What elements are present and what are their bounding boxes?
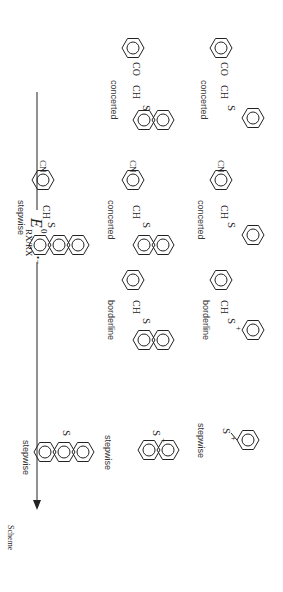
svg-text:stepwise: stepwise [196,423,206,458]
svg-text:concerted: concerted [106,200,116,240]
svg-text:CH: CH [219,85,230,99]
rotated-diagram: E 0 RX/RX •− S + stepwise S + stepwise S… [0,0,283,592]
svg-text:S: S [226,318,238,324]
svg-text:S: S [61,430,73,436]
svg-text:CO: CO [131,62,142,76]
svg-text:borderline: borderline [106,300,116,340]
svg-text:concerted: concerted [109,80,119,120]
svg-text:stepwise: stepwise [21,440,31,475]
svg-text:stepwise: stepwise [16,200,26,235]
svg-text:S: S [226,222,238,228]
svg-text:S: S [226,105,238,111]
svg-text:S: S [141,318,153,324]
svg-text:S: S [46,222,58,228]
svg-text:CN: CN [128,160,138,173]
svg-text:S: S [151,430,163,436]
svg-text:S: S [141,105,153,111]
svg-text:+: + [234,326,243,331]
svg-text:CN: CN [216,160,226,173]
svg-text:stepwise: stepwise [103,435,113,470]
svg-text:concerted: concerted [196,200,206,240]
column-stepwise-methyl: S + stepwise S + stepwise S stepwise [21,423,259,475]
svg-text:CO: CO [219,62,230,76]
svg-text:concerted: concerted [199,80,209,120]
svg-text:CH: CH [131,300,142,314]
svg-text:•−: •− [33,256,43,264]
svg-text:CH: CH [131,85,142,99]
scheme-fragment: Scheme [6,525,15,551]
svg-text:CH: CH [131,205,142,219]
svg-text:0: 0 [39,229,49,234]
svg-text:CN: CN [38,160,48,173]
svg-text:CH: CH [219,205,230,219]
column-phenacyl: S CH CO concerted S CH CO concerted [109,39,264,130]
column-cyanobenzyl: S CH CN concerted S CH CN concerted S CH… [16,160,264,255]
column-borderline-benzyl: S + CH borderline S CH borderline [106,271,264,350]
svg-text:CH: CH [219,300,230,314]
svg-text:borderline: borderline [201,300,211,340]
svg-text:CH: CH [41,205,52,219]
svg-text:S: S [141,222,153,228]
svg-text:+: + [159,438,168,443]
